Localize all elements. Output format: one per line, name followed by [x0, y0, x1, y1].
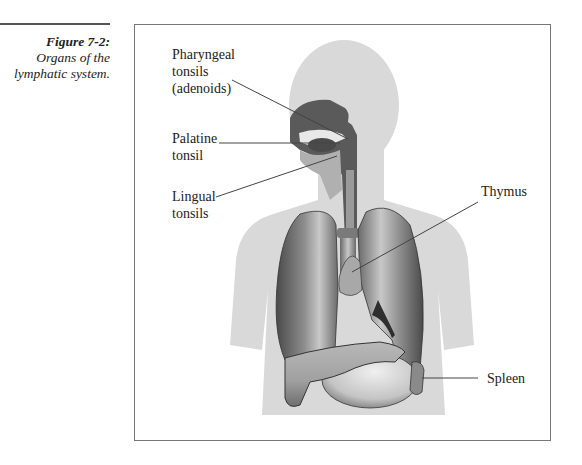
spleen: [410, 362, 424, 395]
label-thymus: Thymus: [481, 183, 527, 200]
label-lingual-tonsils: Lingual tonsils: [172, 188, 216, 222]
label-pharyngeal-tonsils: Pharyngeal tonsils (adenoids): [172, 46, 235, 97]
label-spleen: Spleen: [487, 370, 525, 387]
lymphatic-system-illustration: [0, 0, 582, 465]
label-palatine-tonsil: Palatine tonsil: [172, 130, 217, 164]
